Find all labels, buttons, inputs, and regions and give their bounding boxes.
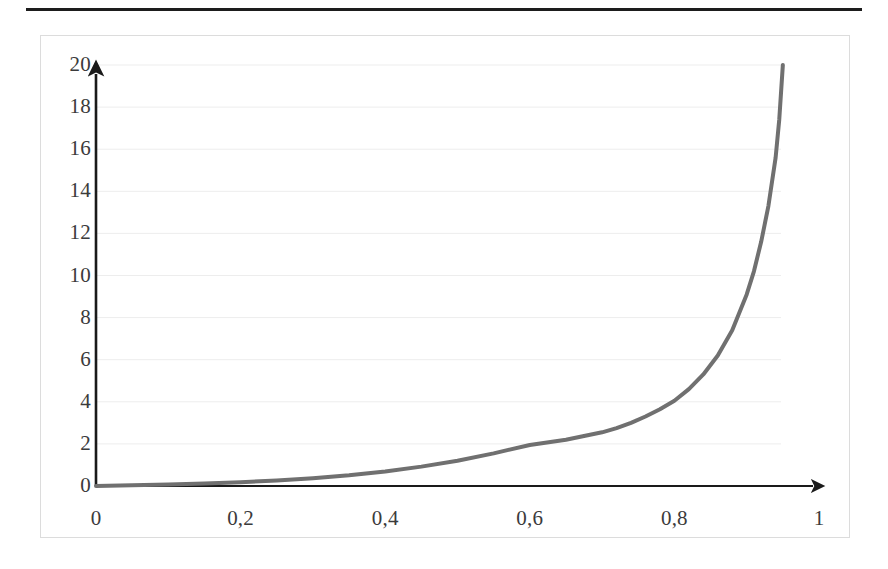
x-tick-label-0-2: 0,2 — [227, 508, 254, 529]
x-tick-label-0-8: 0,8 — [661, 508, 688, 529]
x-tick-label-0: 0 — [91, 508, 102, 529]
x-tick-label-0-4: 0,4 — [372, 508, 399, 529]
chart-frame: 02468101214161820 00,20,40,60,81 — [40, 35, 850, 538]
chart-plot-container: 02468101214161820 00,20,40,60,81 — [41, 36, 851, 539]
x-axis-tick-labels: 00,20,40,60,81 — [41, 36, 851, 539]
x-tick-label-0-6: 0,6 — [516, 508, 543, 529]
top-horizontal-rule — [26, 8, 862, 11]
page-root: 02468101214161820 00,20,40,60,81 — [0, 0, 888, 569]
x-tick-label-1: 1 — [814, 508, 825, 529]
